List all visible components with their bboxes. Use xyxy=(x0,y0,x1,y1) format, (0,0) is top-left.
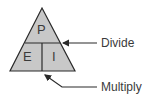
cell-p-label: P xyxy=(37,24,46,36)
divide-label: Divide xyxy=(101,37,134,49)
cell-e-label: E xyxy=(23,51,32,63)
cell-i-label: I xyxy=(52,51,56,63)
multiply-label: Multiply xyxy=(101,81,142,93)
multiply-arrow xyxy=(45,75,97,87)
